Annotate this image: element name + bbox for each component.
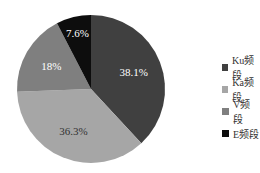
legend-swatch-ka xyxy=(222,86,228,93)
legend-item-e: E频段 xyxy=(222,122,260,144)
pie-chart: 38.1%36.3%18%7.6% xyxy=(0,0,260,173)
legend-label-e: E频段 xyxy=(233,126,259,141)
legend-swatch-ku xyxy=(222,64,228,71)
legend-swatch-v xyxy=(222,108,229,115)
legend-swatch-e xyxy=(222,130,229,137)
pie-label-ku: 38.1% xyxy=(120,66,148,78)
pie-label-ka: 36.3% xyxy=(59,125,87,137)
legend-item-v: V频段 xyxy=(222,100,260,122)
legend: Ku频段 Ka频段 V频段 E频段 xyxy=(222,56,260,144)
legend-label-v: V频段 xyxy=(233,96,260,126)
pie-label-v: 18% xyxy=(41,60,61,72)
pie-label-e: 7.6% xyxy=(66,27,89,39)
